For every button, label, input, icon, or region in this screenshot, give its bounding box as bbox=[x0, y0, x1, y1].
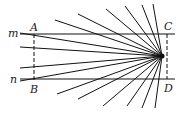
focal-point bbox=[160, 54, 165, 59]
ray bbox=[20, 33, 162, 56]
ray bbox=[57, 56, 162, 94]
geometry-figure: m n A B C D bbox=[0, 0, 182, 114]
label-a: A bbox=[29, 21, 38, 34]
label-d: D bbox=[163, 82, 173, 95]
label-b: B bbox=[29, 83, 38, 96]
ray bbox=[20, 56, 162, 68]
ray bbox=[153, 4, 162, 56]
label-m: m bbox=[8, 27, 18, 40]
label-c: C bbox=[164, 20, 173, 33]
label-n: n bbox=[10, 73, 17, 86]
ray bbox=[20, 56, 162, 81]
ray-bundle bbox=[20, 4, 162, 108]
ray bbox=[142, 5, 162, 56]
ray bbox=[125, 6, 162, 56]
